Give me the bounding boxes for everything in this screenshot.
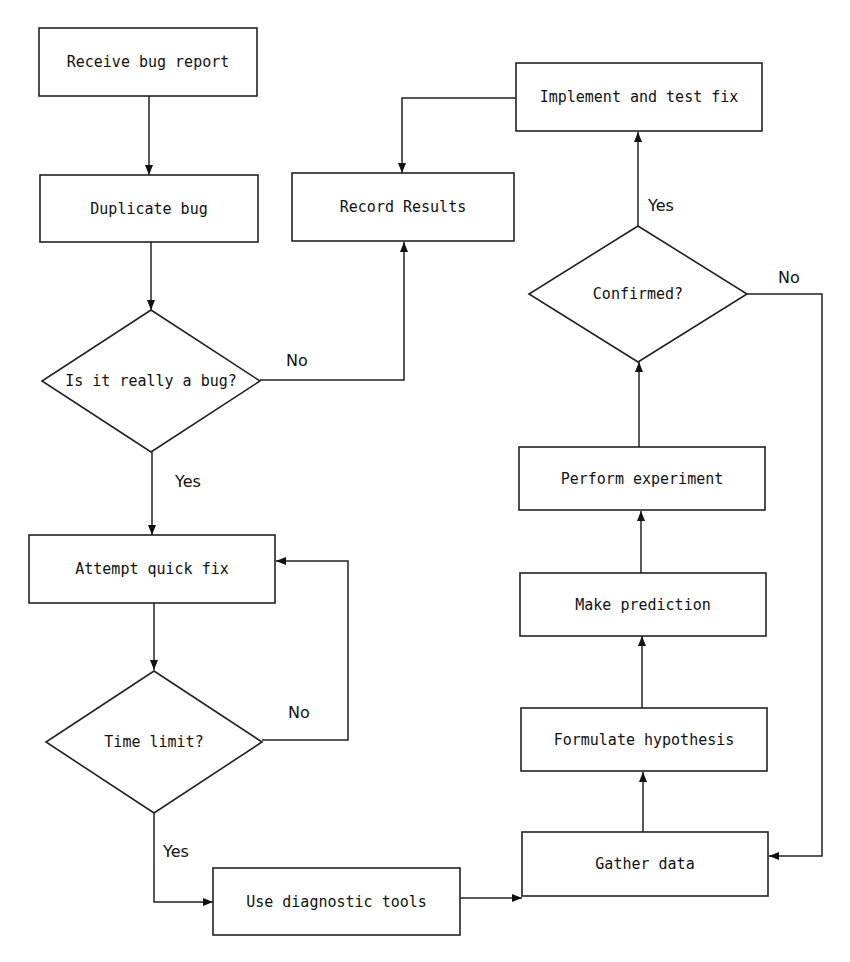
nodes-layer: Receive bug reportDuplicate bugRecord Re… (29, 28, 768, 935)
node-record: Record Results (292, 173, 514, 241)
edge-label-no: No (286, 351, 308, 370)
edge-label-yes: Yes (647, 196, 674, 215)
node-diagnostic: Use diagnostic tools (213, 868, 460, 935)
node-label: Attempt quick fix (75, 560, 229, 578)
node-label: Implement and test fix (540, 88, 739, 106)
edge-label-yes: Yes (162, 842, 189, 861)
node-label: Confirmed? (593, 285, 683, 303)
node-timelimit: Time limit? (46, 671, 262, 813)
edge-label-no: No (288, 703, 310, 722)
node-label: Perform experiment (561, 470, 724, 488)
node-experiment: Perform experiment (519, 447, 765, 510)
node-label: Use diagnostic tools (246, 893, 427, 911)
node-predict: Make prediction (520, 573, 766, 636)
node-label: Formulate hypothesis (554, 731, 735, 749)
edge-label-yes: Yes (174, 472, 201, 491)
node-formulate: Formulate hypothesis (521, 708, 767, 771)
node-gather: Gather data (522, 832, 768, 896)
edge-implement-to-record (402, 98, 516, 173)
flowchart-svg: Receive bug reportDuplicate bugRecord Re… (0, 0, 850, 962)
node-receive: Receive bug report (39, 28, 257, 96)
node-attempt: Attempt quick fix (29, 535, 275, 603)
node-label: Gather data (595, 855, 694, 873)
node-duplicate: Duplicate bug (40, 175, 258, 242)
node-confirmed: Confirmed? (529, 226, 747, 362)
node-label: Receive bug report (67, 53, 230, 71)
node-label: Is it really a bug? (65, 372, 237, 390)
node-label: Make prediction (575, 596, 710, 614)
node-really: Is it really a bug? (42, 310, 260, 452)
edge-label-no: No (778, 268, 800, 287)
node-label: Time limit? (104, 733, 203, 751)
node-label: Record Results (340, 198, 466, 216)
flowchart-canvas: Receive bug reportDuplicate bugRecord Re… (0, 0, 850, 962)
node-implement: Implement and test fix (516, 63, 762, 131)
edge-really-to-record (260, 242, 404, 380)
node-label: Duplicate bug (90, 200, 207, 218)
